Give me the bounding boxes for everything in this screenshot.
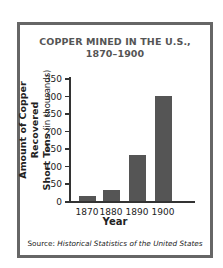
y-tick-label: 0: [40, 197, 62, 207]
y-tick-label: 50: [40, 179, 62, 189]
y-tick: [65, 78, 70, 80]
source-text: Historical Statistics of the United Stat…: [57, 239, 202, 248]
x-axis-label: Year: [20, 216, 210, 227]
y-tick: [65, 201, 70, 203]
y-tick: [65, 183, 70, 185]
y-tick: [65, 166, 70, 168]
y-tick: [65, 131, 70, 133]
y-tick-label: 150: [40, 144, 62, 154]
x-axis-line: [69, 201, 195, 203]
y-tick: [65, 113, 70, 115]
bar-1880: [103, 190, 120, 201]
y-tick-label: 250: [40, 109, 62, 119]
bar-1900: [155, 96, 172, 201]
source-label: Source:: [27, 239, 55, 248]
y-tick-label: 200: [40, 127, 62, 137]
bar-1890: [129, 155, 146, 201]
bar-1870: [79, 196, 96, 201]
y-tick-label: 300: [40, 92, 62, 102]
y-tick-label: 350: [40, 74, 62, 84]
chart-frame: COPPER MINED IN THE U.S., 1870–1900 Amou…: [17, 22, 213, 258]
source-note: Source: Historical Statistics of the Uni…: [20, 239, 210, 248]
y-tick: [65, 96, 70, 98]
y-tick: [65, 148, 70, 150]
y-tick-label: 100: [40, 162, 62, 172]
